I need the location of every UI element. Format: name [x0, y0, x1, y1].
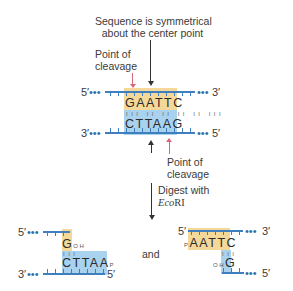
and-label: and: [142, 248, 160, 260]
top-left-dots: •••: [89, 86, 101, 98]
bottom-right-dots: •••: [197, 127, 209, 139]
strand-tick: [126, 128, 127, 132]
left-bottom-sequence: CTTAA: [62, 256, 110, 270]
left-fragment-bottom-5prime: 5′: [107, 268, 115, 280]
symmetry-label: Sequence is symmetrical about the center…: [95, 15, 210, 39]
cleavage-label-top: Point of cleavage: [95, 48, 137, 72]
strand-tick: [231, 231, 232, 235]
strand-tick: [79, 269, 80, 273]
top-right-dots: •••: [197, 86, 209, 98]
strand-tick: [118, 92, 119, 96]
cleavage-label-bottom-line2: cleavage: [167, 168, 209, 180]
symmetry-label-line1: Sequence is symmetrical: [95, 15, 210, 27]
strand-tick: [118, 128, 119, 132]
strand-tick: [182, 128, 183, 132]
strand-tick: [207, 231, 208, 235]
strand-tick: [166, 128, 167, 132]
right-fragment-bottom-5prime: 5′: [262, 267, 270, 279]
bottom-strand-backbone: [105, 132, 195, 134]
right-fragment-top-dots: •••: [245, 225, 257, 237]
symmetry-label-line2: about the center point: [95, 27, 210, 39]
strand-tick: [223, 231, 224, 235]
left-fragment-bottom-dots: •••: [27, 268, 39, 280]
strand-tick: [190, 92, 191, 96]
strand-tick: [134, 128, 135, 132]
strand-tick: [158, 128, 159, 132]
right-fragment-bottom-backbone: [222, 272, 244, 274]
strand-tick: [239, 231, 240, 235]
right-fragment-top-3prime: 3′: [262, 225, 270, 237]
left-top-base-g: G: [62, 237, 73, 251]
left-fragment-bottom-3prime: 3′: [18, 268, 26, 280]
symmetry-arrow-bottom-shaft: [151, 145, 152, 153]
enzyme-name-italic: Eco: [158, 197, 174, 208]
enzyme-name: EcoRI: [158, 196, 209, 209]
strand-tick: [103, 269, 104, 273]
right-top-sequence: AATTC: [190, 236, 238, 250]
right-fragment-bottom-dots: •••: [245, 267, 257, 279]
strand-tick: [150, 128, 151, 132]
bottom-left-dots: •••: [89, 127, 101, 139]
strand-tick: [190, 128, 191, 132]
cleavage-label-top-line2: cleavage: [95, 60, 137, 72]
right-fragment-top-seq: PAATTC: [184, 237, 237, 252]
digest-label: Digest with EcoRI: [158, 184, 209, 209]
top-5prime-label: 5′: [81, 86, 89, 98]
digest-arrow-shaft: [151, 183, 152, 216]
strand-tick: [95, 269, 96, 273]
cleavage-label-bottom: Point of cleavage: [167, 156, 209, 180]
bottom-5prime-label: 5′: [212, 127, 220, 139]
right-fragment-bottom-base: OHG: [213, 257, 236, 272]
symmetry-arrow-shaft: [150, 40, 151, 83]
strand-tick: [47, 269, 48, 273]
strand-tick: [191, 231, 192, 235]
enzyme-name-roman: RI: [174, 197, 185, 208]
strand-tick: [87, 269, 88, 273]
digest-arrowhead-icon: [149, 215, 155, 220]
left-fragment-top-5prime: 5′: [18, 226, 26, 238]
cleavage-label-bottom-line1: Point of: [167, 156, 209, 168]
strand-tick: [110, 128, 111, 132]
strand-tick: [199, 231, 200, 235]
cleavage-label-top-line1: Point of: [95, 48, 137, 60]
left-fragment-bottom-backbone: [43, 273, 105, 275]
strand-tick: [239, 268, 240, 272]
digest-label-line1: Digest with: [158, 184, 209, 196]
bottom-3prime-label: 3′: [81, 127, 89, 139]
strand-tick: [231, 268, 232, 272]
strand-tick: [142, 128, 143, 132]
strand-tick: [55, 232, 56, 236]
strand-tick: [174, 128, 175, 132]
strand-tick: [47, 232, 48, 236]
strand-tick: [215, 231, 216, 235]
right-fragment-top-5prime: 5′: [178, 225, 186, 237]
strand-tick: [110, 92, 111, 96]
top-3prime-label: 3′: [212, 86, 220, 98]
strand-tick: [55, 269, 56, 273]
left-fragment-top-dots: •••: [27, 226, 39, 238]
oh-end-label: OH: [73, 243, 85, 249]
strand-tick: [223, 268, 224, 272]
cleavage-arrow-bottom-shaft: [169, 142, 170, 154]
strand-tick: [71, 269, 72, 273]
top-sequence: GAATTC: [125, 97, 184, 110]
symmetry-arrowhead-icon: [148, 81, 154, 86]
strand-tick: [63, 232, 64, 236]
strand-tick: [63, 269, 64, 273]
